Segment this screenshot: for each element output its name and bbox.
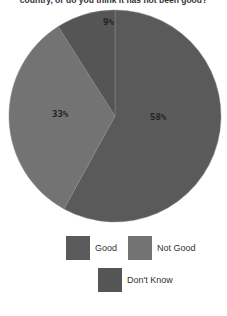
legend-label-good: Good [95,243,117,253]
legend-item-good: Good [66,236,117,260]
pie-chart: 58%33%9% [0,0,227,230]
slice-label-good: 58% [150,112,167,122]
legend-label-dont-know: Don't Know [127,275,173,285]
legend-swatch-dont-know [98,268,122,292]
legend-label-not-good: Not Good [157,243,196,253]
slice-label-dont-know: 9% [103,17,114,27]
legend-item-dont-know: Don't Know [98,268,173,292]
slice-label-not-good: 33% [52,109,69,119]
legend-swatch-not-good [128,236,152,260]
legend-item-not-good: Not Good [128,236,196,260]
legend-swatch-good [66,236,90,260]
